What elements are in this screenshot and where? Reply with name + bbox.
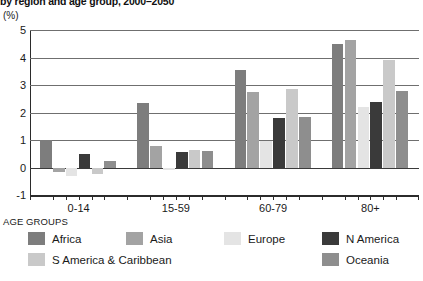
- legend-swatch: [126, 232, 143, 245]
- x-axis-tick: [345, 195, 346, 200]
- legend-row: AfricaAsiaEuropeN America: [28, 232, 423, 253]
- bar: [202, 151, 214, 168]
- y-axis-tick-label: 2: [20, 107, 26, 119]
- bar: [104, 161, 116, 168]
- x-axis-ticks: [30, 195, 419, 201]
- legend-label: Europe: [248, 233, 285, 245]
- bar: [176, 152, 188, 167]
- x-axis-tick: [202, 195, 203, 200]
- x-axis-tick: [418, 195, 419, 200]
- bar: [137, 103, 149, 168]
- y-axis-tick-label: 3: [20, 79, 26, 91]
- x-axis-tick: [225, 195, 226, 200]
- bar: [235, 70, 247, 168]
- x-axis-tick: [260, 195, 261, 200]
- x-axis-tick: [358, 195, 359, 200]
- x-axis-tick: [66, 195, 67, 200]
- bar: [383, 60, 395, 167]
- x-axis-tick: [150, 195, 151, 200]
- x-axis-tick: [286, 195, 287, 200]
- legend-swatch: [322, 232, 339, 245]
- bar: [286, 89, 298, 167]
- bar: [53, 168, 65, 172]
- legend-label: Africa: [52, 233, 81, 245]
- bar: [358, 107, 370, 168]
- y-axis-tick-label: 4: [20, 52, 26, 64]
- x-axis-tick: [322, 195, 323, 200]
- chart-title: by region and age group, 2000–2050: [0, 0, 174, 7]
- bar: [40, 140, 52, 168]
- x-axis-tick: [104, 195, 105, 200]
- bar: [79, 154, 91, 168]
- x-axis-tick: [127, 195, 128, 200]
- x-axis-tick: [176, 195, 177, 200]
- bar-group-15-59: [127, 30, 224, 195]
- bar: [247, 92, 259, 168]
- bar: [189, 150, 201, 168]
- x-axis-tick: [53, 195, 54, 200]
- bars-layer: [30, 30, 419, 195]
- bar: [370, 102, 382, 168]
- bar: [150, 146, 162, 168]
- x-axis-category-label: 80+: [361, 202, 380, 214]
- x-axis-tick: [370, 195, 371, 200]
- legend-row: S America & CaribbeanOceania: [28, 253, 423, 274]
- legend-swatch: [322, 253, 339, 266]
- x-axis-category-label: 15-59: [162, 202, 190, 214]
- x-axis-tick: [383, 195, 384, 200]
- x-axis-category-label: 0-14: [68, 202, 90, 214]
- legend-item[interactable]: Africa: [28, 232, 81, 245]
- x-axis-tick: [79, 195, 80, 200]
- x-axis-tick: [92, 195, 93, 200]
- y-axis-tick-label: -1: [16, 189, 26, 201]
- x-axis-tick: [189, 195, 190, 200]
- bar: [332, 44, 344, 168]
- chart-legend: AfricaAsiaEuropeN America S America & Ca…: [28, 232, 423, 274]
- x-axis-tick: [396, 195, 397, 200]
- legend-swatch: [28, 232, 45, 245]
- bar-group-60-79: [225, 30, 322, 195]
- legend-label: N America: [346, 233, 399, 245]
- bar: [66, 168, 78, 176]
- legend-item[interactable]: S America & Caribbean: [28, 253, 172, 266]
- bar: [345, 40, 357, 168]
- x-axis-category-labels: 0-1415-5960-7980+: [30, 202, 419, 216]
- x-axis-tick: [163, 195, 164, 200]
- bar: [163, 168, 175, 171]
- x-axis-tick: [30, 195, 31, 200]
- x-axis-title: AGE GROUPS: [3, 216, 68, 227]
- bar: [273, 118, 285, 168]
- x-axis-tick: [299, 195, 300, 200]
- bar: [299, 117, 311, 168]
- legend-item[interactable]: Europe: [224, 232, 285, 245]
- bar: [260, 141, 272, 167]
- x-axis-tick: [247, 195, 248, 200]
- bar: [396, 91, 408, 168]
- legend-label: Asia: [150, 233, 172, 245]
- legend-swatch: [28, 253, 45, 266]
- y-axis-unit-label: (%): [3, 10, 19, 21]
- legend-item[interactable]: Oceania: [322, 253, 389, 266]
- bar: [92, 168, 104, 175]
- bar-group-0-14: [30, 30, 127, 195]
- plot-area: 543210-1: [30, 30, 419, 195]
- bar-group-80plus: [322, 30, 419, 195]
- legend-label: S America & Caribbean: [52, 254, 172, 266]
- y-axis-tick-label: 5: [20, 24, 26, 36]
- y-axis-tick-label: 0: [20, 162, 26, 174]
- x-axis-category-label: 60-79: [259, 202, 287, 214]
- legend-label: Oceania: [346, 254, 389, 266]
- y-axis-tick-label: 1: [20, 134, 26, 146]
- legend-item[interactable]: Asia: [126, 232, 172, 245]
- legend-item[interactable]: N America: [322, 232, 399, 245]
- legend-swatch: [224, 232, 241, 245]
- x-axis-tick: [273, 195, 274, 200]
